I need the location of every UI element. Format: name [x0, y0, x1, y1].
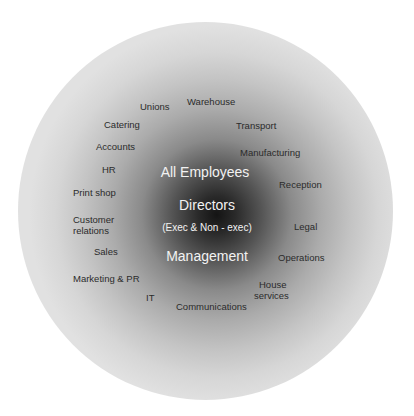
stakeholder-diagram: All Employees Directors (Exec & Non - ex… — [0, 0, 414, 416]
department-label-operations: Operations — [278, 252, 324, 263]
department-label-house-services-line2: services — [254, 290, 289, 301]
department-label-customer-relations-line2: relations — [73, 225, 109, 236]
core-label-management: Management — [166, 248, 248, 264]
department-label-accounts: Accounts — [96, 141, 135, 152]
department-label-manufacturing: Manufacturing — [240, 147, 300, 158]
core-label-directors-note: (Exec & Non - exec) — [162, 222, 251, 234]
department-label-warehouse: Warehouse — [187, 96, 235, 107]
department-label-print-shop: Print shop — [73, 187, 116, 198]
department-label-it: IT — [146, 292, 154, 303]
department-label-marketing-pr: Marketing & PR — [73, 273, 140, 284]
department-label-customer-relations-line1: Customer — [73, 214, 114, 225]
core-label-directors: Directors — [179, 197, 235, 213]
core-label-all-employees: All Employees — [161, 164, 250, 180]
department-label-communications: Communications — [176, 301, 247, 312]
department-label-reception: Reception — [279, 179, 322, 190]
department-label-catering: Catering — [104, 119, 140, 130]
department-label-transport: Transport — [236, 120, 276, 131]
department-label-house-services-line1: House — [259, 279, 286, 290]
department-label-sales: Sales — [94, 246, 118, 257]
department-label-unions: Unions — [140, 101, 170, 112]
department-label-hr: HR — [102, 164, 116, 175]
department-label-legal: Legal — [294, 221, 317, 232]
